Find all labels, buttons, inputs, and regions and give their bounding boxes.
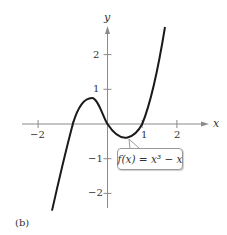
callout-text: f(x) = x³ − x <box>118 153 183 165</box>
function-callout: f(x) = x³ − x <box>117 148 183 170</box>
x-tick-label-2: 2 <box>174 130 180 140</box>
y-axis-arrow-icon <box>105 26 110 34</box>
y-tick-label-neg1: −1 <box>88 154 103 164</box>
x-tick-label-1: 1 <box>141 130 147 140</box>
x-axis-label: x <box>213 118 219 129</box>
y-axis-label: y <box>104 12 110 23</box>
x-axis-arrow-icon <box>201 122 209 127</box>
y-tick-label-neg2: −2 <box>88 188 103 198</box>
function-graph <box>0 0 227 235</box>
y-tick-label-1: 1 <box>93 84 99 94</box>
y-tick-label-2: 2 <box>93 50 99 60</box>
x-tick-label-neg2: −2 <box>30 130 45 140</box>
figure-caption: (b) <box>15 217 29 228</box>
